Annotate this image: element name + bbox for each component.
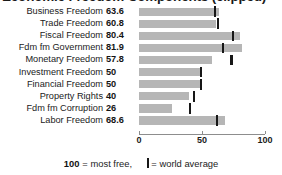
- axis-tick-label: 0: [126, 135, 152, 145]
- axis-tick: [139, 131, 140, 134]
- world-average-marker: [189, 103, 191, 114]
- economic-freedom-chart: Economic Freedom Components (clipped) Bu…: [0, 0, 282, 175]
- legend-max-text: = most free,: [82, 158, 132, 169]
- value-bar: [139, 104, 172, 112]
- category-label: Labor Freedom: [0, 115, 103, 127]
- category-label: Fiscal Freedom: [0, 30, 103, 42]
- world-average-marker: [214, 6, 216, 17]
- value-bar: [139, 116, 225, 124]
- value-bar: [139, 44, 242, 52]
- value-label: 81.9: [106, 42, 134, 54]
- chart-row: Monetary Freedom57.8: [0, 54, 282, 66]
- category-label: Financial Freedom: [0, 79, 103, 91]
- category-label: Fdm fm Corruption: [0, 103, 103, 115]
- chart-row: Fdm fm Government81.9: [0, 42, 282, 54]
- category-label: Business Freedom: [0, 6, 103, 18]
- value-label: 68.6: [106, 115, 134, 127]
- axis-tick: [202, 131, 203, 134]
- world-average-marker: [193, 91, 195, 102]
- value-label: 57.8: [106, 54, 134, 66]
- axis-tick-label: 100: [252, 135, 278, 145]
- chart-row: Fiscal Freedom80.4: [0, 30, 282, 42]
- value-label: 50: [106, 67, 134, 79]
- value-bar: [139, 32, 240, 40]
- category-label: Fdm fm Government: [0, 42, 103, 54]
- world-average-marker: [232, 31, 234, 42]
- chart-plot-area: Business Freedom63.6Trade Freedom60.8Fis…: [0, 6, 282, 134]
- value-bar: [139, 80, 202, 88]
- chart-row: Fdm fm Corruption26: [0, 103, 282, 115]
- chart-row: Business Freedom63.6: [0, 6, 282, 18]
- value-bar: [139, 8, 219, 16]
- value-label: 26: [106, 103, 134, 115]
- chart-row: Investment Freedom50: [0, 67, 282, 79]
- chart-legend: 100 = most free, = world average: [0, 154, 282, 172]
- category-label: Trade Freedom: [0, 18, 103, 30]
- world-average-marker: [217, 18, 219, 29]
- value-bar: [139, 92, 189, 100]
- world-average-marker: [216, 115, 218, 126]
- value-bar: [139, 56, 212, 64]
- chart-row: Labor Freedom68.6: [0, 115, 282, 127]
- axis-tick: [265, 131, 266, 134]
- value-bar: [139, 20, 216, 28]
- world-average-marker: [222, 43, 224, 54]
- legend-max-value: 100: [64, 158, 80, 169]
- chart-title-clipped: Economic Freedom Components (clipped): [0, 0, 282, 5]
- page-title: Economic Freedom Components (clipped): [2, 0, 266, 4]
- world-average-marker: [230, 55, 232, 66]
- category-label: Investment Freedom: [0, 67, 103, 79]
- axis-tick-label: 50: [189, 135, 215, 145]
- chart-row: Trade Freedom60.8: [0, 18, 282, 30]
- chart-row: Financial Freedom50: [0, 79, 282, 91]
- world-average-marker-icon: [147, 158, 149, 168]
- world-average-marker: [200, 79, 202, 90]
- category-label: Property Rights: [0, 91, 103, 103]
- value-bar: [139, 68, 202, 76]
- value-label: 80.4: [106, 30, 134, 42]
- value-label: 63.6: [106, 6, 134, 18]
- value-label: 60.8: [106, 18, 134, 30]
- value-label: 50: [106, 79, 134, 91]
- chart-row: Property Rights40: [0, 91, 282, 103]
- world-average-marker: [200, 67, 202, 78]
- legend-marker-text: = world average: [151, 158, 218, 169]
- value-label: 40: [106, 91, 134, 103]
- category-label: Monetary Freedom: [0, 54, 103, 66]
